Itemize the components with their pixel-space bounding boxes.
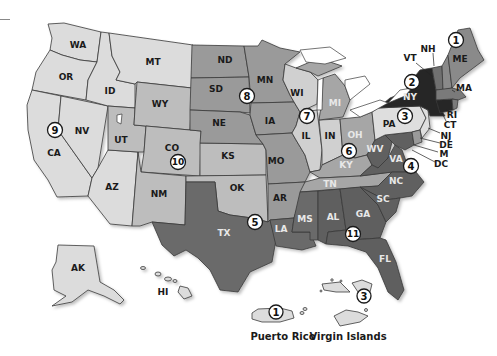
region-badge-11: 11 xyxy=(346,227,361,242)
label-la: LA xyxy=(275,224,288,234)
label-vt: VT xyxy=(403,53,417,63)
region-badge-4: 4 xyxy=(404,159,419,174)
label-id: ID xyxy=(105,86,116,96)
label-il: IL xyxy=(301,131,310,141)
region-badge-7: 7 xyxy=(300,109,315,124)
svg-text:7: 7 xyxy=(304,111,311,122)
label-sd: SD xyxy=(209,84,223,94)
label-ga: GA xyxy=(356,209,370,219)
label-co: CO xyxy=(165,143,180,153)
label-nm: NM xyxy=(151,189,168,199)
label-wa: WA xyxy=(70,40,87,50)
svg-text:3: 3 xyxy=(402,111,409,122)
label-ma: MA xyxy=(456,83,472,93)
label-ar: AR xyxy=(273,193,287,203)
svg-text:5: 5 xyxy=(252,217,259,228)
region-badge-8: 8 xyxy=(240,89,255,104)
region-badge-9: 9 xyxy=(48,123,63,138)
label-mi: MI xyxy=(329,98,341,108)
label-ks: KS xyxy=(221,151,234,161)
state-de[interactable] xyxy=(412,130,422,145)
us-circuit-map: WA OR MT ID WY NV CA UT CO AZ NM ND SD N… xyxy=(0,0,497,356)
state-ri[interactable] xyxy=(452,99,458,110)
region-badge-10: 10 xyxy=(171,155,186,170)
svg-text:10: 10 xyxy=(172,157,185,167)
label-puerto-rico: Puerto Rico xyxy=(250,331,315,342)
label-wy: WY xyxy=(152,99,169,109)
label-ia: IA xyxy=(265,116,275,126)
label-wv: WV xyxy=(367,144,384,154)
svg-text:1: 1 xyxy=(273,307,280,318)
label-nv: NV xyxy=(75,126,90,136)
svg-text:2: 2 xyxy=(409,77,416,88)
svg-text:9: 9 xyxy=(52,125,59,136)
label-hi: HI xyxy=(158,287,169,297)
state-ak[interactable] xyxy=(52,245,124,306)
label-al: AL xyxy=(327,212,340,222)
label-ms: MS xyxy=(297,214,312,224)
svg-text:8: 8 xyxy=(244,91,251,102)
label-pa: PA xyxy=(383,119,396,129)
label-ky: KY xyxy=(339,160,353,170)
label-tx: TX xyxy=(217,228,230,238)
label-ak: AK xyxy=(71,263,86,273)
svg-text:1: 1 xyxy=(453,35,460,46)
label-tn: TN xyxy=(323,179,337,189)
label-me: ME xyxy=(452,54,467,64)
label-az: AZ xyxy=(105,182,119,192)
label-fl: FL xyxy=(379,254,391,264)
label-nd: ND xyxy=(217,55,232,65)
label-ca: CA xyxy=(47,148,61,158)
label-mo: MO xyxy=(268,156,285,166)
label-md: M xyxy=(440,149,449,159)
region-badge-1: 1 xyxy=(449,33,464,48)
region-badge-3-virgin-islands: 3 xyxy=(357,289,371,303)
label-va: VA xyxy=(389,154,402,164)
label-virgin-islands: Virgin Islands xyxy=(309,331,386,342)
label-ny: NY xyxy=(403,92,418,102)
label-sc: SC xyxy=(376,194,389,204)
label-in: IN xyxy=(325,131,336,141)
region-badge-5: 5 xyxy=(248,215,263,230)
label-ut: UT xyxy=(114,135,128,145)
label-ne: NE xyxy=(212,118,226,128)
svg-text:6: 6 xyxy=(346,146,353,157)
label-dc: DC xyxy=(434,159,448,169)
label-or: OR xyxy=(59,72,74,82)
region-badge-1-puerto-rico: 1 xyxy=(269,305,283,319)
svg-text:3: 3 xyxy=(361,291,368,302)
svg-text:11: 11 xyxy=(347,229,360,239)
label-mn: MN xyxy=(257,75,274,85)
label-ok: OK xyxy=(230,183,246,193)
label-nh: NH xyxy=(420,44,435,54)
label-wi: WI xyxy=(290,88,303,98)
label-oh: OH xyxy=(347,130,362,140)
svg-text:4: 4 xyxy=(408,161,415,172)
label-nc: NC xyxy=(389,176,404,186)
region-badge-2: 2 xyxy=(405,75,420,90)
region-badge-6: 6 xyxy=(342,144,357,159)
label-mt: MT xyxy=(145,57,161,67)
region-badge-3: 3 xyxy=(398,109,413,124)
